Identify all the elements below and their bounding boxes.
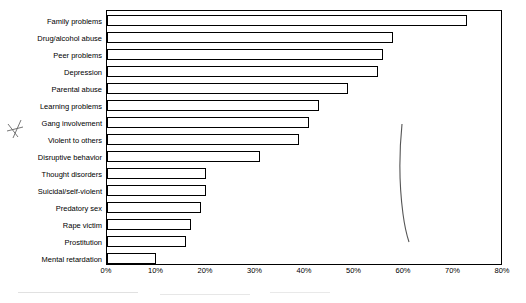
category-label-12: Rape victim — [0, 221, 102, 230]
category-label-1: Drug/alcohol abuse — [0, 34, 102, 43]
bar-rape-victim — [107, 219, 191, 230]
bar-chart: Family problems Drug/alcohol abuse Peer … — [0, 0, 526, 303]
bar-row-14 — [107, 253, 501, 264]
category-label-14: Mental retardation — [0, 255, 102, 264]
x-tick-0: 0% — [101, 266, 112, 275]
x-tick-4: 40% — [296, 266, 311, 275]
handwritten-check-mark-icon — [6, 118, 32, 140]
category-label-9: Thought disorders — [0, 170, 102, 179]
bar-violent-to-others — [107, 134, 299, 145]
bar-row-2 — [107, 49, 501, 60]
scan-artifact — [270, 292, 330, 293]
plot-area — [106, 10, 502, 265]
x-tick-3: 30% — [247, 266, 262, 275]
category-label-10: Suicidal/self-violent — [0, 187, 102, 196]
bar-row-11 — [107, 202, 501, 213]
bar-depression — [107, 66, 378, 77]
bar-row-3 — [107, 66, 501, 77]
bar-drug-alcohol-abuse — [107, 32, 393, 43]
bar-mental-retardation — [107, 253, 156, 264]
x-tick-5: 50% — [346, 266, 361, 275]
bar-peer-problems — [107, 49, 383, 60]
bar-row-7 — [107, 134, 501, 145]
category-label-5: Learning problems — [0, 102, 102, 111]
bar-thought-disorders — [107, 168, 206, 179]
category-label-8: Disruptive behavior — [0, 153, 102, 162]
bar-disruptive-behavior — [107, 151, 260, 162]
x-axis: 0% 10% 20% 30% 40% 50% 60% 70% 80% — [106, 266, 502, 282]
category-label-4: Parental abuse — [0, 85, 102, 94]
category-axis-labels: Family problems Drug/alcohol abuse Peer … — [0, 0, 102, 303]
bar-parental-abuse — [107, 83, 348, 94]
bar-learning-problems — [107, 100, 319, 111]
category-label-2: Peer problems — [0, 51, 102, 60]
bar-row-8 — [107, 151, 501, 162]
x-tick-6: 60% — [395, 266, 410, 275]
bar-row-0 — [107, 15, 501, 26]
bar-row-9 — [107, 168, 501, 179]
bar-row-4 — [107, 83, 501, 94]
x-tick-2: 20% — [197, 266, 212, 275]
bar-row-10 — [107, 185, 501, 196]
bar-gang-involvement — [107, 117, 309, 128]
scan-artifact — [160, 294, 250, 295]
bar-row-1 — [107, 32, 501, 43]
bar-suicidal-self-violent — [107, 185, 206, 196]
bar-row-5 — [107, 100, 501, 111]
x-tick-8: 80% — [494, 266, 509, 275]
x-tick-7: 70% — [445, 266, 460, 275]
category-label-13: Prostitution — [0, 238, 102, 247]
bar-row-12 — [107, 219, 501, 230]
bar-row-6 — [107, 117, 501, 128]
bar-prostitution — [107, 236, 186, 247]
category-label-11: Predatory sex — [0, 204, 102, 213]
bar-row-13 — [107, 236, 501, 247]
bar-series — [107, 11, 501, 264]
bar-family-problems — [107, 15, 467, 26]
category-label-0: Family problems — [0, 17, 102, 26]
bar-predatory-sex — [107, 202, 201, 213]
category-label-3: Depression — [0, 68, 102, 77]
x-tick-1: 10% — [148, 266, 163, 275]
